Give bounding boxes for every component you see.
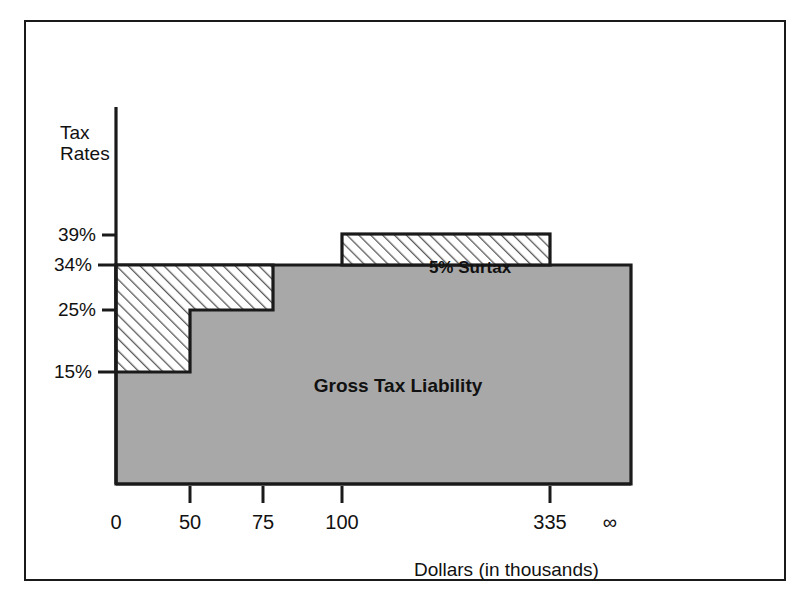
x-tick-label-75: 75	[252, 511, 274, 534]
surtax-label: 5% Surtax	[429, 258, 511, 278]
y-tick-label-25: 25%	[30, 299, 96, 321]
figure-frame: Tax Rates 39% 34% 25% 15% 0 50 75 100 33…	[24, 20, 786, 581]
y-axis-title-line-1: Tax	[60, 122, 130, 143]
y-axis-title-line-2: Rates	[60, 143, 130, 164]
x-tick-label-50: 50	[179, 511, 201, 534]
x-tick-label-infinity: ∞	[603, 511, 617, 534]
figure-page: Tax Rates 39% 34% 25% 15% 0 50 75 100 33…	[0, 0, 804, 601]
y-tick-label-39: 39%	[30, 224, 96, 246]
y-tick-label-15: 15%	[26, 361, 92, 383]
x-tick-label-335: 335	[533, 511, 566, 534]
y-axis-title: Tax Rates	[60, 122, 130, 164]
y-tick-label-34: 34%	[26, 254, 92, 276]
gross-tax-liability-label: Gross Tax Liability	[314, 375, 483, 397]
x-tick-label-0: 0	[110, 511, 121, 534]
y-axis-ticks	[98, 235, 116, 372]
x-axis-title: Dollars (in thousands)	[414, 559, 599, 580]
tax-rate-step-chart	[26, 22, 784, 579]
x-tick-label-100: 100	[325, 511, 358, 534]
x-axis-ticks	[190, 486, 550, 503]
